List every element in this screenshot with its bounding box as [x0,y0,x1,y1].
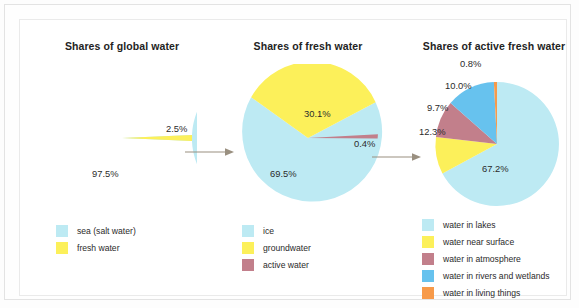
pie-value-label-69-5: 69.5% [270,168,297,179]
legend-swatch-water-near-surface [422,236,434,248]
legend-item-water-in-rivers-and-wetlands: water in rivers and wetlands [422,268,550,284]
pie-value-label-12-3: 12.3% [419,126,446,137]
pie-svg-global-water [47,64,197,212]
legend-swatch-water-in-lakes [422,219,434,231]
chart-title-fresh-water: Shares of fresh water [218,40,398,52]
legend-global-water: sea (salt water) fresh water [56,223,136,257]
legend-label-sea-salt-water: sea (salt water) [77,227,136,236]
legend-label-water-near-surface: water near surface [443,238,514,247]
pie-value-label-97-5: 97.5% [92,168,119,179]
legend-label-water-in-living-things: water in living things [443,289,520,298]
chart-block-active-fresh-water: Shares of active fresh water [404,20,579,295]
legend-label-fresh-water: fresh water [77,244,120,253]
pie-value-label-9-7: 9.7% [427,102,448,113]
chart-panel: Shares of global water 97.5% 2.5% sea (s… [19,19,567,296]
legend-item-groundwater: groundwater [242,240,311,256]
legend-label-water-in-lakes: water in lakes [443,221,496,230]
legend-label-water-in-rivers-and-wetlands: water in rivers and wetlands [443,272,550,281]
chart-title-active-fresh-water: Shares of active fresh water [404,40,579,52]
pie-chart-global-water [32,64,212,212]
legend-swatch-active-water [242,259,254,271]
legend-item-water-near-surface: water near surface [422,234,550,250]
pie-value-label-0-8: 0.8% [460,58,481,69]
legend-label-ice: ice [263,227,274,236]
legend-item-sea-salt-water: sea (salt water) [56,223,136,239]
legend-label-active-water: active water [263,261,309,270]
pie-svg-active-fresh-water [419,72,569,212]
pie-value-label-0-4: 0.4% [354,138,375,149]
legend-item-active-water: active water [242,257,311,273]
legend-item-water-in-lakes: water in lakes [422,217,550,233]
pie-value-label-67-2: 67.2% [482,163,509,174]
pie-value-label-10-0: 10.0% [445,80,472,91]
figure-root: Shares of global water 97.5% 2.5% sea (s… [0,0,579,308]
pie-value-label-2-5: 2.5% [166,123,187,134]
chart-block-fresh-water: Shares of fresh water 69.5% 30.1% 0.4% [218,20,398,295]
legend-label-groundwater: groundwater [263,244,311,253]
legend-item-water-in-living-things: water in living things [422,285,550,301]
legend-swatch-water-in-atmosphere [422,253,434,265]
legend-fresh-water: ice groundwater active water [242,223,311,274]
legend-swatch-water-in-living-things [422,287,434,299]
legend-swatch-fresh-water [56,242,68,254]
legend-active-fresh-water: water in lakes water near surface water … [422,217,550,302]
pie-value-label-30-1: 30.1% [304,108,331,119]
legend-swatch-sea-salt-water [56,225,68,237]
pie-chart-active-fresh-water [404,72,579,212]
legend-item-water-in-atmosphere: water in atmosphere [422,251,550,267]
legend-swatch-water-in-rivers-and-wetlands [422,270,434,282]
chart-title-global-water: Shares of global water [32,40,212,52]
pie-slice-fresh-water [122,135,192,141]
legend-swatch-groundwater [242,242,254,254]
legend-label-water-in-atmosphere: water in atmosphere [443,255,521,264]
legend-item-fresh-water: fresh water [56,240,136,256]
legend-swatch-ice [242,225,254,237]
outer-frame: Shares of global water 97.5% 2.5% sea (s… [4,4,571,300]
legend-item-ice: ice [242,223,311,239]
